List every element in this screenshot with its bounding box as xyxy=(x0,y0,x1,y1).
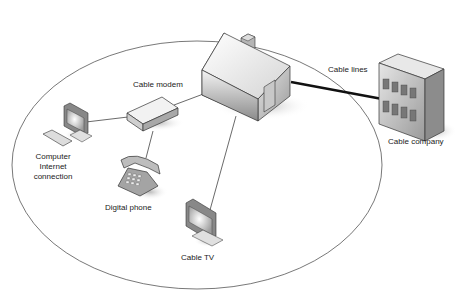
modem-phone-connector xyxy=(146,131,153,158)
cable-lines-label: Cable lines xyxy=(328,65,368,75)
cable-modem-label: Cable modem xyxy=(133,80,183,90)
computer-label-line2: Internet xyxy=(29,162,77,172)
house-icon xyxy=(202,33,310,121)
modem-icon xyxy=(127,97,184,131)
house-modem-connector xyxy=(174,93,206,105)
computer-label-line3: connection xyxy=(29,172,77,182)
telephone-icon xyxy=(118,156,168,200)
house-tv-connector xyxy=(210,116,236,210)
cable-tv-label: Cable TV xyxy=(181,253,214,263)
modem-computer-connector xyxy=(86,117,128,122)
tv-monitor-icon xyxy=(186,199,223,247)
cable-company-label: Cable company xyxy=(388,137,444,147)
digital-phone-label: Digital phone xyxy=(105,203,152,213)
computer-label-line1: Computer xyxy=(29,152,77,162)
cable-lines-connector xyxy=(291,82,393,101)
computer-label: Computer Internet connection xyxy=(29,152,77,182)
computer-monitor-icon xyxy=(43,103,92,146)
office-building-icon xyxy=(379,54,457,141)
